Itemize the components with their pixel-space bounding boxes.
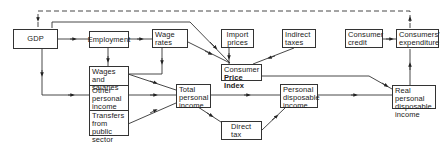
node-other-personal-income: Other personal income	[90, 86, 128, 111]
edge-expenditure-to-gdp	[38, 11, 410, 29]
node-import-prices-label: Import prices	[224, 31, 251, 47]
node-employment-label: Employment	[88, 36, 131, 44]
node-import-prices: Import prices	[221, 29, 254, 48]
edge-wage-rates-to-wages	[128, 48, 162, 74]
node-consumer-price-index: Consumer Price Index	[221, 64, 262, 81]
arrow-tax-pdi	[272, 116, 277, 120]
node-consumers-expenditure: Consumers' expenditure	[396, 29, 439, 48]
node-consumers-expenditure-label: Consumers' expenditure	[399, 30, 440, 47]
edge-indirect-to-cpi	[253, 48, 294, 64]
arrow-wage-cpi	[205, 51, 211, 54]
edge-gdp-to-cpi	[52, 22, 230, 63]
node-real-personal-disposable-income: Real personal disposable income	[392, 85, 436, 109]
node-employment: Employment	[89, 31, 129, 48]
node-cpi-line2: Price Index	[224, 74, 259, 90]
node-transfers-from-public-sector: Transfers from public sector	[90, 111, 128, 135]
edge-gdp-to-other-income	[42, 49, 89, 95]
edge-transfers-to-total	[128, 103, 176, 124]
node-wages-and-salaries: Wages and salaries	[90, 67, 128, 86]
arrow-total-tax	[207, 113, 212, 116]
node-consumer-credit-label: Consumer credit	[348, 30, 383, 47]
node-personal-disposable-income-label: Personal disposable income	[283, 85, 320, 110]
node-wage-rates-label: Wage rates	[155, 30, 175, 47]
node-gdp: GDP	[13, 29, 58, 49]
arrow-gdp-cpi	[210, 42, 216, 48]
node-direct-tax: Direct tax	[221, 121, 262, 140]
node-consumer-credit: Consumer credit	[345, 29, 383, 48]
node-income-components: Wages and salaries Other personal income…	[89, 66, 129, 136]
node-total-personal-income-label: Total personal income	[179, 85, 209, 110]
node-personal-disposable-income: Personal disposable income	[280, 84, 318, 108]
node-wage-rates: Wage rates	[152, 29, 188, 48]
arrow-cpi-real	[382, 83, 387, 86]
node-indirect-taxes: Indirect taxes	[282, 29, 316, 48]
node-indirect-taxes-label: Indirect taxes	[285, 30, 310, 47]
node-direct-tax-label: Direct tax	[231, 122, 251, 139]
node-gdp-label: GDP	[27, 35, 44, 43]
node-total-personal-income: Total personal income	[176, 84, 211, 108]
